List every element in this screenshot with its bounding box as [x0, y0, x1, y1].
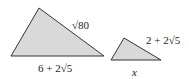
- large-triangle-side-label: √80: [72, 19, 90, 31]
- large-triangle-base-label: 6 + 2√5: [38, 62, 73, 74]
- large-triangle: [11, 8, 104, 56]
- similar-triangles-diagram: √80 6 + 2√5 2 + 2√5 x: [0, 0, 189, 79]
- small-triangle-side-label: 2 + 2√5: [146, 34, 181, 46]
- small-triangle-base-label: x: [131, 66, 137, 78]
